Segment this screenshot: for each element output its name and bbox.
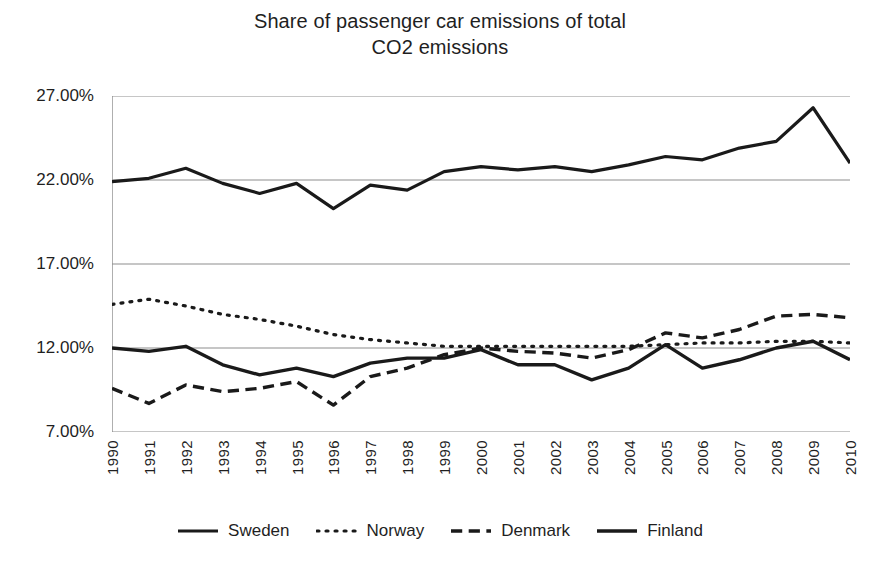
- legend-label-sweden: Sweden: [228, 521, 289, 541]
- y-tick-label-7.00%: 7.00%: [46, 422, 94, 442]
- chart-plot-svg: [112, 96, 850, 432]
- legend-swatch-finland-icon: [596, 524, 638, 538]
- x-tick-label-1996: 1996: [325, 440, 342, 475]
- y-tick-label-22.00%: 22.00%: [36, 170, 94, 190]
- x-tick-label-1990: 1990: [104, 440, 121, 475]
- legend-swatch-sweden-icon: [177, 524, 219, 538]
- legend-label-denmark: Denmark: [501, 521, 570, 541]
- x-tick-label-2007: 2007: [731, 440, 748, 475]
- legend-item-denmark[interactable]: Denmark: [450, 521, 570, 541]
- chart-title: Share of passenger car emissions of tota…: [0, 8, 880, 60]
- y-tick-label-27.00%: 27.00%: [36, 86, 94, 106]
- legend-label-norway: Norway: [367, 521, 425, 541]
- chart-container: Share of passenger car emissions of tota…: [0, 0, 880, 570]
- x-tick-label-1995: 1995: [289, 440, 306, 475]
- x-tick-label-1994: 1994: [252, 440, 269, 475]
- x-tick-label-2004: 2004: [621, 440, 638, 475]
- chart-title-line-1: Share of passenger car emissions of tota…: [0, 8, 880, 34]
- x-tick-label-2008: 2008: [768, 440, 785, 475]
- y-tick-label-17.00%: 17.00%: [36, 254, 94, 274]
- x-tick-label-2000: 2000: [473, 440, 490, 475]
- x-axis: 1990199119921993199419951996199719981999…: [112, 440, 850, 510]
- legend-label-finland: Finland: [647, 521, 703, 541]
- x-tick-label-2005: 2005: [658, 440, 675, 475]
- x-tick-label-1991: 1991: [141, 440, 158, 475]
- y-axis: 7.00%12.00%17.00%22.00%27.00%: [0, 0, 108, 570]
- plot-area: [112, 96, 850, 432]
- series-line-sweden: [112, 108, 850, 209]
- x-tick-label-1998: 1998: [399, 440, 416, 475]
- x-tick-label-1992: 1992: [178, 440, 195, 475]
- y-tick-label-12.00%: 12.00%: [36, 338, 94, 358]
- x-tick-label-2006: 2006: [694, 440, 711, 475]
- x-tick-label-1993: 1993: [215, 440, 232, 475]
- x-tick-label-2001: 2001: [510, 440, 527, 475]
- legend-swatch-norway-icon: [316, 524, 358, 538]
- x-tick-label-1999: 1999: [436, 440, 453, 475]
- legend-item-finland[interactable]: Finland: [596, 521, 703, 541]
- chart-title-line-2: CO2 emissions: [0, 34, 880, 60]
- x-tick-label-2002: 2002: [547, 440, 564, 475]
- legend-item-norway[interactable]: Norway: [316, 521, 425, 541]
- chart-legend: SwedenNorwayDenmarkFinland: [0, 521, 880, 541]
- x-tick-label-1997: 1997: [362, 440, 379, 475]
- legend-item-sweden[interactable]: Sweden: [177, 521, 289, 541]
- x-tick-label-2003: 2003: [584, 440, 601, 475]
- x-tick-label-2009: 2009: [805, 440, 822, 475]
- legend-swatch-denmark-icon: [450, 524, 492, 538]
- series-line-norway: [112, 299, 850, 346]
- x-tick-label-2010: 2010: [842, 440, 859, 475]
